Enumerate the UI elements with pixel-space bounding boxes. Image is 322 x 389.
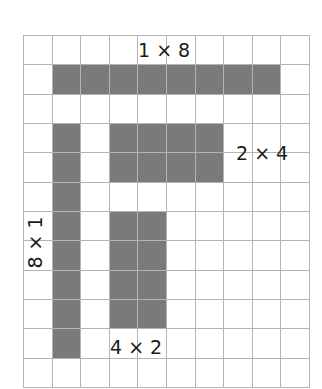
grid-line-horizontal (23, 240, 310, 241)
label-1x8: 1 × 8 (138, 41, 190, 60)
grid-line-horizontal (23, 211, 310, 212)
grid-line-horizontal (23, 299, 310, 300)
grid-line-horizontal (23, 358, 310, 359)
grid-line-horizontal (23, 182, 310, 183)
grid-line-horizontal (23, 328, 310, 329)
grid-line-horizontal (23, 123, 310, 124)
grid-paper (23, 35, 309, 387)
grid-line-horizontal (23, 387, 310, 388)
grid-line-horizontal (23, 270, 310, 271)
label-4x2: 4 × 2 (110, 338, 162, 357)
grid-line-horizontal (23, 94, 310, 95)
grid-line-horizontal (23, 64, 310, 65)
grid-line-horizontal (23, 35, 310, 36)
label-2x4: 2 × 4 (236, 144, 288, 163)
label-8x1: 8 × 1 (26, 216, 45, 268)
